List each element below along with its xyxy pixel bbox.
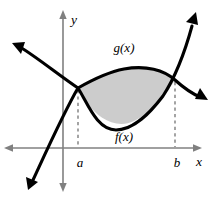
curve-f-right-arrowhead xyxy=(186,12,198,25)
y-axis-bottom-arrowhead xyxy=(59,183,66,192)
tick-label-b: b xyxy=(174,155,181,170)
y-axis-label: y xyxy=(69,12,77,27)
x-axis-label: x xyxy=(195,154,202,169)
area-between-curves-figure: y x a b g(x) f(x) xyxy=(0,0,216,198)
curve-f-label: f(x) xyxy=(115,129,133,144)
curve-g-label: g(x) xyxy=(114,40,135,55)
x-axis-left-arrowhead xyxy=(4,144,13,151)
tick-label-a: a xyxy=(77,155,84,170)
x-axis-right-arrowhead xyxy=(193,144,202,151)
y-axis-top-arrowhead xyxy=(59,10,66,19)
figure-canvas: y x a b g(x) f(x) xyxy=(0,0,216,198)
